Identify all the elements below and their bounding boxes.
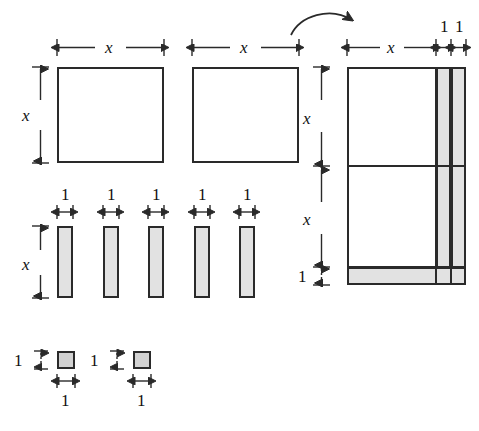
combined-unit-row [347,267,466,285]
tile-x-5 [239,226,255,298]
label-combined-top-1a: 1 [440,18,449,35]
combined-x-strip-1 [436,67,451,285]
label-tick-1-c: 1 [152,186,161,203]
label-unit2-bottom: 1 [137,392,146,409]
label-square2-top-x: x [240,39,248,56]
tile-unit-1 [57,351,75,369]
label-combined-left-x1: x [303,110,311,127]
tile-x-4 [194,226,210,298]
label-unit1-left: 1 [14,352,23,369]
combined-x-strip-2 [451,67,466,285]
tile-x-squared-1 [57,67,164,163]
label-unit1-bottom: 1 [61,392,70,409]
label-xtiles-left-x: x [22,256,30,273]
label-tick-1-a: 1 [61,186,70,203]
label-combined-top-x: x [387,39,395,56]
tile-unit-2 [133,351,151,369]
tile-x-1 [57,226,73,298]
label-combined-left-x2: x [303,211,311,228]
label-tick-1-b: 1 [107,186,116,203]
label-tick-1-d: 1 [198,186,207,203]
tile-x-3 [148,226,164,298]
figure-canvas: x x x 1 1 1 1 1 x 1 1 1 1 x 1 1 x x 1 [0,0,479,431]
label-combined-top-1b: 1 [455,18,464,35]
label-square1-top-x: x [105,39,113,56]
tile-x-2 [103,226,119,298]
label-combined-left-1: 1 [298,268,307,285]
tile-x-squared-2 [192,67,299,163]
label-square1-left-x: x [22,107,30,124]
label-unit2-left: 1 [90,352,99,369]
label-tick-1-e: 1 [243,186,252,203]
